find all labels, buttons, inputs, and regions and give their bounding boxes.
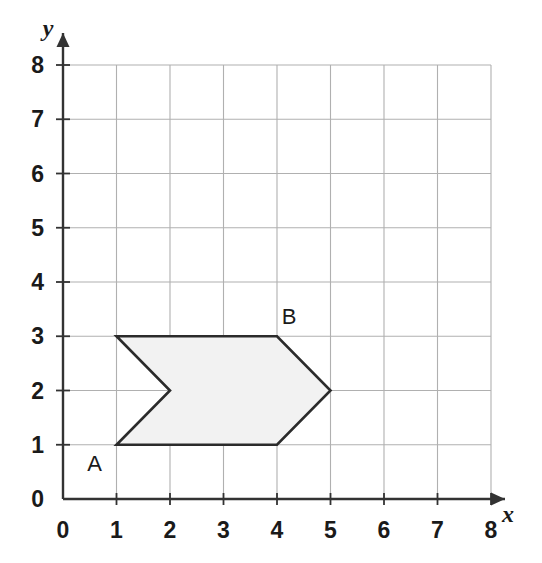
x-tick-label: 5 [324,517,337,543]
y-tick-label: 4 [31,269,44,295]
y-tick-label: 7 [31,106,44,132]
x-axis-label: x [501,501,514,527]
vertex-label-a: A [87,451,102,476]
x-tick-label: 3 [217,517,230,543]
coordinate-grid-figure: 012345678012345678 AB x y [0,0,542,563]
x-tick-label: 4 [271,517,284,543]
x-tick-label: 0 [57,517,70,543]
vertex-label-b: B [282,304,297,329]
y-tick-label: 3 [31,323,44,349]
y-tick-label: 6 [31,161,44,187]
x-tick-label: 7 [431,517,444,543]
x-tick-label: 6 [378,517,391,543]
x-tick-label: 8 [485,517,498,543]
y-tick-label: 0 [31,486,44,512]
y-tick-label: 2 [31,378,44,404]
x-tick-label: 1 [110,517,123,543]
y-tick-label: 5 [31,215,44,241]
x-tick-label: 2 [164,517,177,543]
y-axis-label: y [40,15,54,41]
y-tick-label: 8 [31,52,44,78]
y-tick-label: 1 [31,432,44,458]
